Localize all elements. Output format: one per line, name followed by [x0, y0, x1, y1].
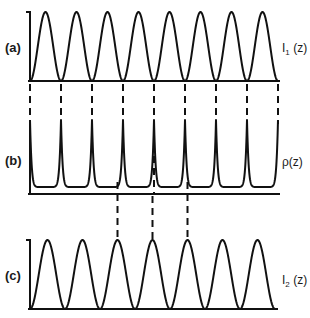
function-label-a: I1 (z) [282, 41, 307, 57]
y-axis-a [26, 12, 30, 81]
function-label-b: ρ(z) [282, 155, 303, 169]
y-axis-c [26, 240, 30, 309]
connectors-b-to-c [118, 182, 188, 240]
panel-label-a: (a) [5, 40, 21, 55]
connectors-a-to-b [30, 84, 278, 194]
curve-i2 [30, 240, 275, 309]
panel-label-c: (c) [5, 268, 21, 283]
panel-label-b: (b) [5, 153, 22, 168]
axes-c [26, 240, 278, 309]
curve-rho [30, 120, 278, 187]
function-label-c: I2 (z) [282, 273, 307, 289]
diagram-canvas: (a) (b) (c) I1 (z) ρ(z) I2 (z) [0, 0, 310, 318]
curve-i1 [30, 12, 278, 81]
